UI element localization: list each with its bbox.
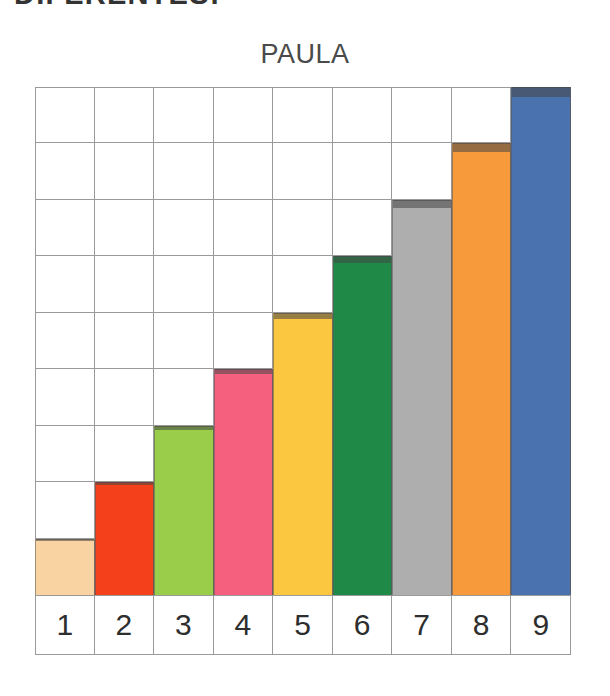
grid-cell bbox=[511, 87, 571, 143]
grid-cell bbox=[273, 313, 333, 369]
grid-cell bbox=[214, 87, 274, 143]
bar-chart-plot-area bbox=[35, 87, 571, 595]
grid-cell bbox=[333, 539, 393, 595]
grid-cell bbox=[35, 256, 95, 312]
grid-cell bbox=[35, 313, 95, 369]
grid-cell bbox=[214, 369, 274, 425]
grid-cell bbox=[333, 256, 393, 312]
grid-cell bbox=[95, 369, 155, 425]
grid-cell bbox=[452, 256, 512, 312]
grid-cell bbox=[35, 482, 95, 538]
grid-cell bbox=[452, 87, 512, 143]
grid-cell bbox=[452, 369, 512, 425]
grid-cell bbox=[95, 313, 155, 369]
grid-cell bbox=[511, 143, 571, 199]
grid-cell bbox=[35, 143, 95, 199]
grid-cell bbox=[214, 313, 274, 369]
x-axis-label-2: 2 bbox=[95, 595, 155, 655]
x-axis-label-9: 9 bbox=[511, 595, 571, 655]
grid-cell bbox=[214, 256, 274, 312]
grid-cell bbox=[511, 200, 571, 256]
x-axis-label-3: 3 bbox=[154, 595, 214, 655]
grid-cell bbox=[154, 426, 214, 482]
grid-cell bbox=[273, 426, 333, 482]
grid-cell bbox=[452, 200, 512, 256]
grid-cell bbox=[333, 143, 393, 199]
grid-cell bbox=[273, 539, 333, 595]
grid-cell bbox=[154, 539, 214, 595]
grid-cell bbox=[392, 539, 452, 595]
grid-cell bbox=[95, 482, 155, 538]
grid-cell bbox=[452, 143, 512, 199]
grid-cell bbox=[95, 200, 155, 256]
grid-cell bbox=[273, 143, 333, 199]
grid-cell bbox=[35, 369, 95, 425]
grid-cell bbox=[214, 200, 274, 256]
grid-cell bbox=[392, 87, 452, 143]
grid-cell bbox=[511, 313, 571, 369]
grid-cell bbox=[273, 256, 333, 312]
grid-cell bbox=[273, 200, 333, 256]
grid-cell bbox=[452, 426, 512, 482]
grid-cell bbox=[392, 200, 452, 256]
grid-cell bbox=[333, 482, 393, 538]
grid-cell bbox=[273, 369, 333, 425]
grid-cell bbox=[452, 313, 512, 369]
x-axis-label-1: 1 bbox=[35, 595, 95, 655]
grid-cell bbox=[95, 87, 155, 143]
grid-cell bbox=[154, 313, 214, 369]
grid-cell bbox=[95, 143, 155, 199]
grid-cell bbox=[452, 482, 512, 538]
grid-cell bbox=[511, 369, 571, 425]
chart-gridlines bbox=[35, 87, 571, 595]
grid-cell bbox=[392, 313, 452, 369]
grid-cell bbox=[214, 539, 274, 595]
grid-cell bbox=[392, 426, 452, 482]
x-axis-label-6: 6 bbox=[333, 595, 393, 655]
grid-cell bbox=[392, 369, 452, 425]
x-axis-label-5: 5 bbox=[273, 595, 333, 655]
grid-cell bbox=[511, 426, 571, 482]
chart-title: PAULA bbox=[0, 39, 610, 70]
grid-cell bbox=[35, 539, 95, 595]
x-axis-label-8: 8 bbox=[452, 595, 512, 655]
grid-cell bbox=[333, 200, 393, 256]
grid-cell bbox=[214, 482, 274, 538]
grid-cell bbox=[333, 87, 393, 143]
grid-cell bbox=[95, 256, 155, 312]
cropped-worksheet-heading: DIFERENTES: bbox=[14, 0, 221, 8]
grid-cell bbox=[154, 256, 214, 312]
grid-cell bbox=[214, 143, 274, 199]
grid-cell bbox=[511, 482, 571, 538]
grid-cell bbox=[392, 143, 452, 199]
grid-cell bbox=[333, 313, 393, 369]
grid-cell bbox=[35, 200, 95, 256]
grid-cell bbox=[392, 482, 452, 538]
grid-cell bbox=[154, 87, 214, 143]
x-axis-label-4: 4 bbox=[214, 595, 274, 655]
x-axis-label-row: 123456789 bbox=[35, 595, 571, 655]
grid-cell bbox=[273, 482, 333, 538]
grid-cell bbox=[452, 539, 512, 595]
grid-cell bbox=[35, 426, 95, 482]
grid-cell bbox=[95, 539, 155, 595]
grid-cell bbox=[511, 256, 571, 312]
grid-cell bbox=[392, 256, 452, 312]
grid-cell bbox=[154, 143, 214, 199]
grid-cell bbox=[35, 87, 95, 143]
grid-cell bbox=[333, 369, 393, 425]
grid-cell bbox=[214, 426, 274, 482]
grid-cell bbox=[154, 369, 214, 425]
grid-cell bbox=[511, 539, 571, 595]
grid-cell bbox=[333, 426, 393, 482]
grid-cell bbox=[273, 87, 333, 143]
grid-cell bbox=[154, 482, 214, 538]
grid-cell bbox=[154, 200, 214, 256]
x-axis-label-7: 7 bbox=[392, 595, 452, 655]
grid-cell bbox=[95, 426, 155, 482]
